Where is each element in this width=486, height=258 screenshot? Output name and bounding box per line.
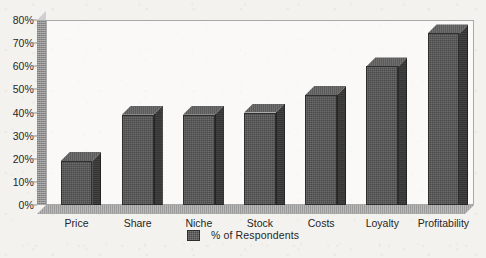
bar-side-face: [92, 152, 101, 205]
y-axis-tick-label: 50%: [13, 83, 34, 95]
plot-floor: [37, 205, 474, 214]
y-axis-tick-mark: [33, 89, 37, 90]
legend-swatch-percent-of-respondents: [187, 230, 200, 241]
bar-column: Profitability: [428, 24, 460, 205]
bar-chart-figure: 0%10%20%30%40%50%60%70%80% PriceShareNic…: [0, 0, 486, 258]
bar-front-face: [305, 95, 337, 205]
x-axis-category-label: Niche: [168, 217, 229, 229]
y-axis-tick-label: 60%: [13, 60, 34, 72]
bar-column: Costs: [305, 86, 337, 205]
y-axis-tick-label: 40%: [13, 107, 34, 119]
bar-front-face: [428, 33, 460, 205]
bar-column: Share: [122, 106, 154, 205]
value-axis-wall-cap: [37, 11, 46, 20]
y-axis-tick-label: 10%: [13, 176, 34, 188]
bar-series: PriceShareNicheStockCostsLoyaltyProfitab…: [46, 20, 474, 205]
y-axis-tick-mark: [33, 181, 37, 182]
y-axis-tick-label: 0%: [19, 199, 34, 211]
x-axis-category-label: Stock: [229, 217, 290, 229]
legend: % of Respondents: [0, 229, 486, 241]
y-axis-tick-mark: [33, 66, 37, 67]
bar-side-face: [337, 86, 346, 205]
bar-side-face: [215, 106, 224, 205]
y-axis-tick-mark: [33, 20, 37, 21]
bar-column: Niche: [183, 106, 215, 205]
x-axis-category-label: Costs: [291, 217, 352, 229]
legend-label-percent-of-respondents: % of Respondents: [211, 229, 299, 241]
y-axis-tick-label: 70%: [13, 37, 34, 49]
y-axis-tick-label: 30%: [13, 130, 34, 142]
bar-front-face: [244, 113, 276, 205]
bar-front-face: [61, 161, 93, 205]
y-axis-tick-mark: [33, 135, 37, 136]
bar-front-face: [366, 66, 398, 205]
bar-side-face: [154, 106, 163, 205]
bar-side-face: [459, 24, 468, 205]
y-axis-tick-label: 80%: [13, 14, 34, 26]
x-axis-category-label: Share: [107, 217, 168, 229]
bar-column: Price: [61, 152, 93, 205]
x-axis-category-label: Price: [46, 217, 107, 229]
y-axis-tick-mark: [33, 205, 37, 206]
bar-side-face: [276, 104, 285, 205]
y-axis-tick-mark: [33, 158, 37, 159]
bar-front-face: [122, 115, 154, 205]
y-axis-tick-mark: [33, 112, 37, 113]
value-axis-wall: [37, 20, 46, 205]
y-axis-tick-mark: [33, 43, 37, 44]
y-axis-tick-label: 20%: [13, 153, 34, 165]
bar-column: Loyalty: [366, 57, 398, 205]
x-axis-category-label: Profitability: [413, 217, 474, 229]
plot-area: 0%10%20%30%40%50%60%70%80% PriceShareNic…: [46, 20, 474, 205]
bar-column: Stock: [244, 104, 276, 205]
x-axis-category-label: Loyalty: [352, 217, 413, 229]
bar-side-face: [398, 57, 407, 205]
bar-front-face: [183, 115, 215, 205]
